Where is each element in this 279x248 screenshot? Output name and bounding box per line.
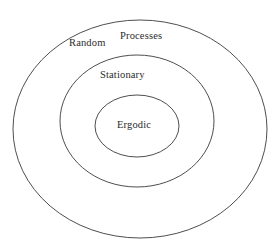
label-ergodic: Ergodic xyxy=(117,120,151,131)
label-random: Random xyxy=(69,38,105,49)
label-stationary: Stationary xyxy=(100,70,145,81)
venn-diagram-canvas: Random Processes Stationary Ergodic xyxy=(0,0,279,248)
label-processes: Processes xyxy=(120,31,162,42)
